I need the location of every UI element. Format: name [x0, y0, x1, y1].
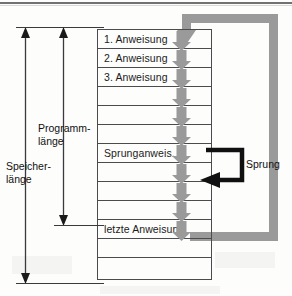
table-row-label: letzte Anweisung — [104, 223, 184, 235]
table-row-label: Sprunganweis. — [104, 147, 175, 159]
table-row[interactable]: 2. Anweisung — [98, 49, 211, 68]
programm-laenge-label: Programm- länge — [38, 122, 91, 148]
jump-label: Sprung — [246, 158, 280, 170]
table-row-label: 2. Anweisung — [104, 52, 168, 64]
table-row-label: 3. Anweisung — [104, 71, 168, 83]
programm-laenge-line2: länge — [38, 135, 91, 148]
scan-artifact-top — [0, 2, 292, 4]
table-row-jump-target[interactable] — [98, 182, 211, 201]
length-measure-brackets — [8, 22, 104, 288]
scan-smudge-1 — [12, 256, 72, 274]
memory-table: 1. Anweisung 2. Anweisung 3. Anweisung S… — [97, 29, 212, 280]
table-row[interactable] — [98, 258, 211, 277]
table-row[interactable] — [98, 163, 211, 182]
table-row[interactable] — [98, 125, 211, 144]
speicher-laenge-line1: Speicher- — [6, 160, 51, 173]
table-row[interactable]: 1. Anweisung — [98, 30, 211, 49]
table-row-last-instruction[interactable]: letzte Anweisung — [98, 220, 211, 239]
table-row-label: 1. Anweisung — [104, 33, 168, 45]
speicher-laenge-line2: länge — [6, 173, 51, 186]
programm-laenge-line1: Programm- — [38, 122, 91, 135]
scan-smudge-3 — [100, 286, 220, 294]
speicher-laenge-label: Speicher- länge — [6, 160, 51, 186]
diagram-canvas: 1. Anweisung 2. Anweisung 3. Anweisung S… — [0, 0, 292, 296]
table-row[interactable] — [98, 106, 211, 125]
table-row[interactable] — [98, 239, 211, 258]
scan-artifact-faint — [0, 5, 292, 6]
table-row-jump-instruction[interactable]: Sprunganweis. — [98, 144, 211, 163]
table-row[interactable]: 3. Anweisung — [98, 68, 211, 87]
table-row[interactable] — [98, 201, 211, 220]
table-row[interactable] — [98, 87, 211, 106]
scan-smudge-2 — [215, 252, 275, 268]
